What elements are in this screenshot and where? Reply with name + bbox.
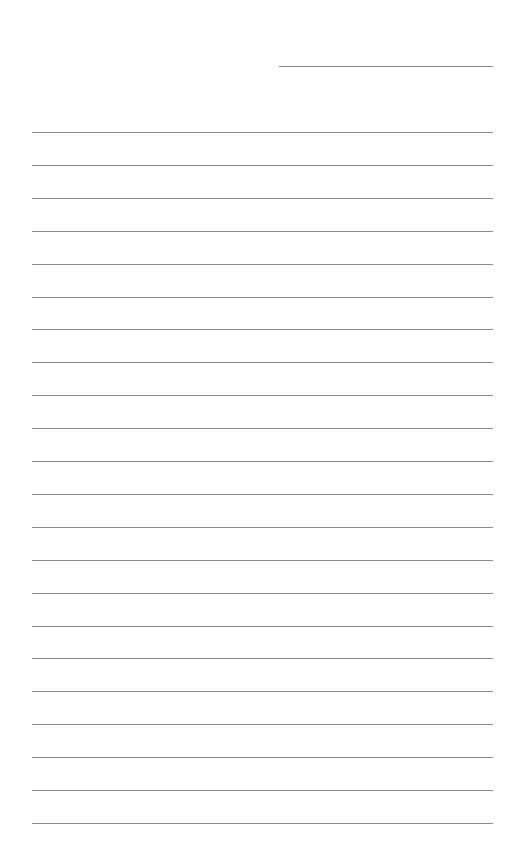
ruled-line bbox=[32, 461, 493, 462]
ruled-line bbox=[32, 560, 493, 561]
ruled-line bbox=[32, 297, 493, 298]
ruled-line bbox=[32, 527, 493, 528]
ruled-line bbox=[32, 757, 493, 758]
header-name-line bbox=[279, 66, 493, 67]
ruled-line bbox=[32, 626, 493, 627]
ruled-line bbox=[32, 724, 493, 725]
ruled-line bbox=[32, 362, 493, 363]
ruled-line bbox=[32, 823, 493, 824]
ruled-line bbox=[32, 658, 493, 659]
ruled-line bbox=[32, 264, 493, 265]
ruled-line bbox=[32, 593, 493, 594]
ruled-line bbox=[32, 691, 493, 692]
ruled-line bbox=[32, 395, 493, 396]
ruled-line bbox=[32, 231, 493, 232]
ruled-line bbox=[32, 790, 493, 791]
ruled-line bbox=[32, 329, 493, 330]
ruled-line bbox=[32, 165, 493, 166]
ruled-line bbox=[32, 198, 493, 199]
lined-paper-page bbox=[0, 0, 514, 853]
ruled-line bbox=[32, 132, 493, 133]
ruled-line bbox=[32, 428, 493, 429]
ruled-line bbox=[32, 494, 493, 495]
